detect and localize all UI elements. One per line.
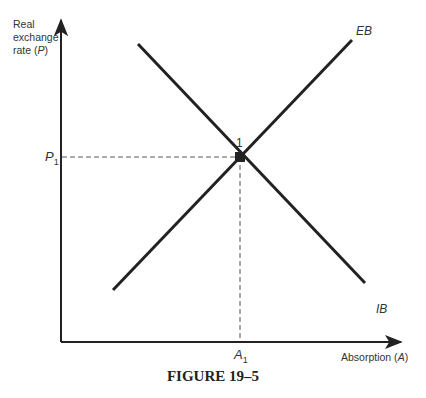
x-axis-label-close: ) [405, 351, 409, 363]
x-axis-label-var: A [398, 351, 405, 363]
y-axis-label-line1: Real [13, 18, 59, 31]
diagram-canvas [0, 0, 426, 398]
p1-var: P [45, 149, 54, 164]
y-axis-label-line2: exchange [13, 31, 59, 44]
a1-label: A1 [234, 347, 248, 365]
p1-subscript: 1 [54, 157, 59, 167]
figure-caption: FIGURE 19–5 [0, 368, 426, 385]
p1-label: P1 [45, 149, 59, 167]
ib-curve [138, 44, 365, 283]
equilibrium-label: 1 [236, 136, 243, 150]
ib-label-text: IB [376, 302, 387, 316]
a1-subscript: 1 [243, 355, 248, 365]
eb-curve [113, 40, 352, 290]
y-axis-label-line3: rate (P) [13, 44, 59, 57]
a1-var: A [234, 347, 243, 362]
equilibrium-point [235, 152, 245, 162]
eb-label: EB [356, 24, 372, 38]
y-axis-label-var: P [38, 44, 45, 56]
y-axis-label: Real exchange rate (P) [13, 18, 59, 57]
x-axis-label: Absorption (A) [341, 351, 408, 363]
ib-label: IB [376, 302, 387, 316]
x-axis-label-text: Absorption ( [341, 351, 398, 363]
y-axis-label-close: ) [45, 44, 49, 56]
y-axis-label-text: rate ( [13, 44, 38, 56]
eb-label-text: EB [356, 24, 372, 38]
